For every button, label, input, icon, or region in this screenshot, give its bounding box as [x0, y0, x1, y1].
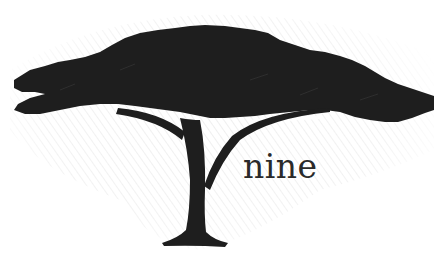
illustration-canvas: nine	[0, 0, 434, 270]
caption-text: nine	[243, 150, 318, 183]
tree-illustration	[0, 0, 434, 270]
